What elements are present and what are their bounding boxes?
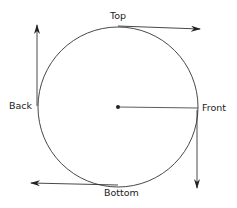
radius-line: [118, 107, 198, 108]
label-bottom: Bottom: [104, 188, 139, 198]
label-top: Top: [110, 11, 126, 21]
label-front: Front: [202, 103, 226, 113]
bottom-arrow: [31, 183, 118, 185]
label-back: Back: [9, 101, 32, 111]
